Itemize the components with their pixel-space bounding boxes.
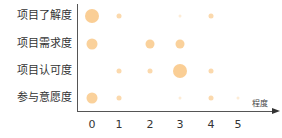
y-label-demand: 项目需求度 [17,38,72,50]
x-axis-arrow-icon [272,108,280,114]
data-point [209,14,214,19]
y-label-understanding: 项目了解度 [17,10,72,22]
data-point [176,40,185,49]
data-point [146,40,155,49]
data-point [209,69,214,74]
data-point [179,15,182,18]
data-point [179,97,182,100]
data-point [117,96,122,101]
data-point [117,14,122,19]
data-point [209,96,214,101]
data-point [173,64,187,78]
x-tick-3: 3 [173,119,187,131]
y-label-willingness: 参与意愿度 [17,92,72,104]
data-point [117,69,122,74]
y-label-recognition: 项目认可度 [17,65,72,77]
data-point [85,9,99,23]
y-axis-line [77,4,78,112]
x-tick-4: 4 [204,119,218,131]
x-tick-2: 2 [143,119,157,131]
data-point [237,97,240,100]
x-tick-5: 5 [231,119,245,131]
data-point [148,69,153,74]
bubble-chart: 项目了解度 项目需求度 项目认可度 参与意愿度 0 1 2 3 4 5 程度 [0,0,282,138]
x-axis-line [77,111,274,112]
data-point [87,93,98,104]
x-tick-0: 0 [85,119,99,131]
x-axis-name: 程度 [252,97,268,108]
data-point [87,39,98,50]
x-tick-1: 1 [112,119,126,131]
